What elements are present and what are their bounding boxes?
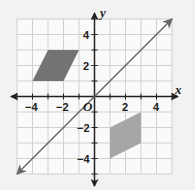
y-tick-label: 2 [83,60,89,72]
y-axis-label: y [98,5,106,20]
y-tick-label: 4 [83,29,90,41]
y-tick-label: −4 [77,153,90,165]
x-axis-label: x [174,82,182,97]
x-tick-label: −4 [25,101,38,113]
origin-label: O [83,99,93,114]
x-tick-label: 4 [153,101,160,113]
x-tick-label: −2 [56,101,69,113]
y-tick-label: −2 [77,122,90,134]
x-tick-label: 2 [122,101,128,113]
coordinate-plane: x y O −4 −2 2 4 4 2 −2 −4 [0,0,195,190]
